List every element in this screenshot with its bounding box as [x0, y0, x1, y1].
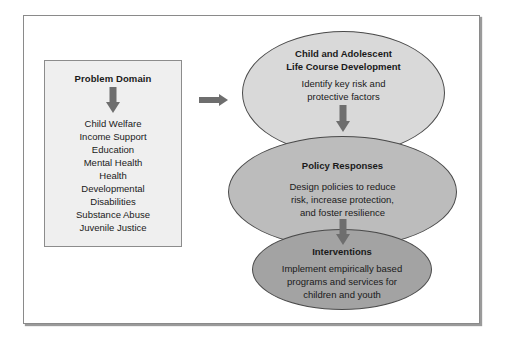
arrow-right-icon: [199, 92, 228, 110]
stage-title: Interventions: [253, 245, 431, 258]
problem-domain-box: Problem Domain Child Welfare Income Supp…: [44, 60, 182, 247]
problem-domain-title: Problem Domain: [45, 73, 181, 84]
arrow-down-icon: [106, 87, 120, 113]
stage-description-line: programs and services for: [253, 275, 431, 288]
stage-description-line: and foster resilience: [229, 206, 456, 219]
stage-title-line: Life Course Development: [243, 60, 444, 73]
list-item: Mental Health: [45, 156, 181, 169]
list-item: Health: [45, 169, 181, 182]
stage-title-line: Policy Responses: [229, 159, 456, 172]
stage-title-line: Interventions: [253, 245, 431, 258]
list-item: Education: [45, 143, 181, 156]
stage-description: Implement empirically based programs and…: [253, 262, 431, 301]
list-item: Juvenile Justice: [45, 221, 181, 234]
stage-description-line: Design policies to reduce: [229, 180, 456, 193]
stage-description-line: risk, increase protection,: [229, 193, 456, 206]
stage-description: Identify key risk and protective factors: [243, 77, 444, 103]
arrow-down-icon: [336, 219, 350, 245]
stage-description: Design policies to reduce risk, increase…: [229, 180, 456, 219]
stage-description-line: Identify key risk and: [243, 77, 444, 90]
stage-title: Child and Adolescent Life Course Develop…: [243, 47, 444, 73]
stage-description-line: children and youth: [253, 288, 431, 301]
stage-title-line: Child and Adolescent: [243, 47, 444, 60]
list-item: Income Support: [45, 130, 181, 143]
stage-title: Policy Responses: [229, 159, 456, 172]
list-item: Developmental: [45, 182, 181, 195]
problem-domain-list: Child Welfare Income Support Education M…: [45, 117, 181, 234]
stage-description-line: protective factors: [243, 90, 444, 103]
list-item: Disabilities: [45, 195, 181, 208]
arrow-down-icon: [336, 105, 350, 132]
list-item: Substance Abuse: [45, 208, 181, 221]
list-item: Child Welfare: [45, 117, 181, 130]
stage-description-line: Implement empirically based: [253, 262, 431, 275]
